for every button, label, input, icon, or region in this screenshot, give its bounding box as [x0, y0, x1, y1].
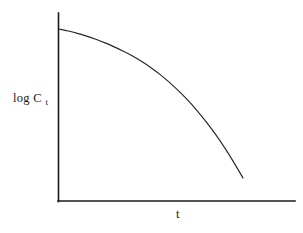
y-axis-label-main: log C — [13, 91, 42, 105]
plot-canvas — [0, 0, 303, 233]
x-axis-label: t — [176, 208, 179, 221]
plot-background — [0, 0, 303, 233]
y-axis-label: log Ct — [13, 92, 48, 105]
figure-container: log Ct t — [0, 0, 303, 233]
y-axis-label-subscript: t — [45, 97, 48, 107]
